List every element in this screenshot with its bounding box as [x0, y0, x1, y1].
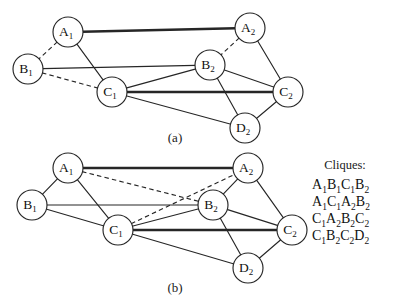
edge-A1-B1: [42, 178, 58, 194]
edge-B2-C1: [132, 209, 199, 227]
caption-b: (b): [167, 280, 182, 295]
edge-A1-C1: [77, 179, 109, 218]
clique-item-1: A1B1C1B2: [312, 177, 369, 195]
edge-A2-C2: [256, 180, 283, 218]
edge-B2-D2: [217, 78, 238, 116]
node-C2[interactable]: C2: [277, 215, 307, 245]
panel-a-nodes: A1A2B1B2C1C2D2: [13, 13, 303, 143]
node-A1[interactable]: A1: [53, 153, 83, 183]
edge-B2-C2: [224, 70, 275, 88]
edge-A1-A2: [82, 28, 235, 31]
edge-C2-D2: [256, 101, 277, 118]
clique-item-2: A1C1A2B2: [312, 194, 370, 212]
caption-a: (a): [168, 130, 182, 145]
edge-B1-C1: [42, 73, 98, 88]
edge-A2-C2: [257, 40, 280, 79]
edge-A1-B1: [39, 42, 58, 59]
node-A2[interactable]: A2: [235, 13, 265, 43]
cliques-title: Cliques:: [324, 158, 366, 172]
node-C1[interactable]: C1: [103, 215, 133, 245]
edge-C1-D2: [132, 234, 234, 264]
edge-B1-B2: [42, 65, 195, 68]
node-B1[interactable]: B1: [17, 190, 47, 220]
node-A2[interactable]: A2: [233, 153, 263, 183]
edge-B2-C2: [227, 209, 278, 225]
node-C2[interactable]: C2: [273, 77, 303, 107]
cliques-legend: Cliques:A1B1C1B2A1C1A2B2C1A2B2C2C1B2C2D2: [312, 158, 370, 246]
edge-C1-D2: [126, 96, 231, 124]
node-B2[interactable]: B2: [195, 50, 225, 80]
edge-A1-B2: [82, 172, 199, 202]
graph-figure: A1A2B1B2C1C2D2 A1A2B1B2C1C2D2 (a)(b) Cli…: [0, 0, 410, 302]
edge-A2-B2: [221, 38, 240, 55]
node-D2[interactable]: D2: [230, 113, 260, 143]
edge-C2-D2: [259, 239, 281, 258]
edge-A2-B2: [223, 179, 238, 195]
clique-item-4: C1B2C2D2: [312, 228, 369, 246]
node-B1[interactable]: B1: [13, 54, 43, 84]
clique-item-3: C1A2B2C2: [312, 211, 369, 229]
edge-A1-C1: [77, 44, 104, 81]
panel-captions: (a)(b): [167, 130, 182, 295]
node-B2[interactable]: B2: [198, 190, 228, 220]
node-D2[interactable]: D2: [233, 253, 263, 283]
edge-B1-C1: [46, 209, 104, 226]
node-C1[interactable]: C1: [97, 77, 127, 107]
edge-B2-D2: [220, 218, 241, 256]
edge-B2-C1: [126, 69, 196, 88]
node-A1[interactable]: A1: [53, 17, 83, 47]
